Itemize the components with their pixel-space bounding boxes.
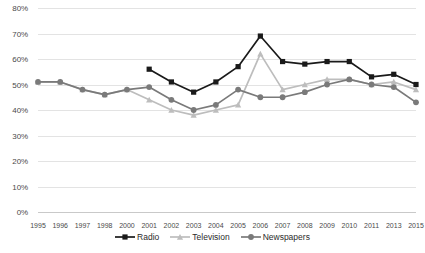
data-point xyxy=(124,87,130,93)
data-point xyxy=(280,94,286,100)
y-axis-tick-label: 80% xyxy=(0,4,28,13)
x-axis-tick-label: 2006 xyxy=(253,222,269,229)
data-point xyxy=(147,67,152,72)
x-axis-tick-label: 2009 xyxy=(319,222,335,229)
x-axis-tick-label: 2000 xyxy=(119,222,135,229)
chart-legend: RadioTelevisionNewspapers xyxy=(0,232,425,242)
x-axis-tick-label: 1998 xyxy=(97,222,113,229)
legend-label: Television xyxy=(192,232,229,242)
data-point xyxy=(191,90,196,95)
x-axis-tick-label: 1995 xyxy=(30,222,46,229)
data-point xyxy=(57,79,63,85)
x-axis-tick-label: 1997 xyxy=(75,222,91,229)
series-line xyxy=(38,54,416,115)
y-axis-tick-label: 60% xyxy=(0,55,28,64)
x-axis-tick-label: 2010 xyxy=(341,222,357,229)
x-axis-tick-label: 2002 xyxy=(164,222,180,229)
y-axis-tick-label: 20% xyxy=(0,157,28,166)
data-point xyxy=(347,59,352,64)
data-point xyxy=(191,107,197,113)
x-axis-tick-label: 2013 xyxy=(386,222,402,229)
data-point xyxy=(413,99,419,105)
y-axis-tick-label: 50% xyxy=(0,80,28,89)
data-point xyxy=(391,72,396,77)
data-point xyxy=(324,59,329,64)
legend-item-newspapers[interactable]: Newspapers xyxy=(241,232,310,242)
x-axis-tick-label: 2007 xyxy=(275,222,291,229)
legend-marker-triangle-icon xyxy=(170,232,190,242)
x-axis-tick-label: 2011 xyxy=(364,222,379,229)
x-axis-tick-label: 2004 xyxy=(208,222,224,229)
series-television xyxy=(35,51,419,118)
data-point xyxy=(235,87,241,93)
data-point xyxy=(169,79,174,84)
data-point xyxy=(213,79,218,84)
data-point xyxy=(258,33,263,38)
x-axis-tick-label: 2008 xyxy=(297,222,313,229)
data-point xyxy=(369,82,375,88)
data-point xyxy=(257,51,263,57)
y-axis-tick-label: 0% xyxy=(0,208,28,217)
data-point xyxy=(102,92,108,98)
x-axis-tick-label: 1996 xyxy=(52,222,68,229)
data-point xyxy=(236,64,241,69)
legend-item-radio[interactable]: Radio xyxy=(115,232,159,242)
data-point xyxy=(302,62,307,67)
legend-label: Newspapers xyxy=(263,232,310,242)
data-point xyxy=(280,59,285,64)
legend-marker-square-icon xyxy=(115,232,135,242)
data-point xyxy=(146,84,152,90)
data-point xyxy=(257,94,263,100)
y-axis-tick-label: 40% xyxy=(0,106,28,115)
data-point xyxy=(302,89,308,95)
data-point xyxy=(213,102,219,108)
legend-item-television[interactable]: Television xyxy=(170,232,229,242)
data-point xyxy=(391,84,397,90)
data-point xyxy=(346,77,352,83)
data-point xyxy=(80,87,86,93)
y-axis-tick-label: 30% xyxy=(0,131,28,140)
data-point xyxy=(169,97,175,103)
data-point xyxy=(35,79,41,85)
x-axis-tick-label: 2005 xyxy=(230,222,246,229)
legend-marker-circle-icon xyxy=(241,232,261,242)
data-point xyxy=(369,74,374,79)
series-line xyxy=(38,79,416,110)
x-axis-tick-label: 2015 xyxy=(408,222,424,229)
y-axis-tick-label: 70% xyxy=(0,29,28,38)
x-axis-tick-label: 2003 xyxy=(186,222,202,229)
legend-label: Radio xyxy=(137,232,159,242)
data-point xyxy=(324,82,330,88)
series-layer xyxy=(38,8,416,212)
line-chart: 0%10%20%30%40%50%60%70%80% 1995199619971… xyxy=(0,0,425,253)
x-axis-tick-label: 2001 xyxy=(141,222,157,229)
x-axis-line xyxy=(38,212,416,213)
plot-area: 0%10%20%30%40%50%60%70%80% 1995199619971… xyxy=(38,8,416,212)
data-point xyxy=(413,82,418,87)
y-axis-tick-label: 10% xyxy=(0,182,28,191)
